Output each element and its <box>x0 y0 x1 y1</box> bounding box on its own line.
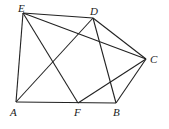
geometry-figure: EDCBFA <box>0 0 169 129</box>
segments <box>16 13 146 103</box>
segment-CB <box>116 59 146 103</box>
segment-EA <box>16 13 23 102</box>
point-label-D: D <box>89 5 98 17</box>
segment-DC <box>93 18 146 59</box>
segment-EC <box>23 13 146 59</box>
point-label-A: A <box>9 106 17 118</box>
point-label-F: F <box>73 106 81 118</box>
segment-DB <box>93 18 116 103</box>
point-label-C: C <box>150 53 158 65</box>
segment-CF <box>78 59 146 103</box>
segment-AB <box>16 102 116 103</box>
point-label-B: B <box>113 106 120 118</box>
segment-DA <box>16 18 93 102</box>
point-labels: EDCBFA <box>9 2 158 118</box>
segment-EF <box>23 13 78 103</box>
point-label-E: E <box>17 2 25 14</box>
